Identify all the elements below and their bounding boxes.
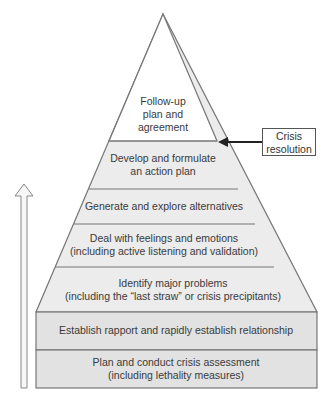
callout-line1: Crisis <box>263 130 315 143</box>
followup-line1: Follow-up <box>138 95 188 108</box>
rapport-line1: Establish rapport and rapidly establish … <box>59 324 293 337</box>
layer-rapport-label: Establish rapport and rapidly establish … <box>59 324 293 337</box>
develop-line2: an action plan <box>110 165 216 178</box>
develop-line1: Develop and formulate <box>110 152 216 165</box>
layer-develop-label: Develop and formulate an action plan <box>110 152 216 178</box>
followup-line3: agreement <box>138 121 188 134</box>
layer-feelings-label: Deal with feelings and emotions (includi… <box>70 232 258 258</box>
layer-assessment-label: Plan and conduct crisis assessment (incl… <box>93 356 260 382</box>
assessment-line2: (including lethality measures) <box>93 369 260 382</box>
layer-followup-label: Follow-up plan and agreement <box>138 95 188 134</box>
followup-line2: plan and <box>138 108 188 121</box>
problems-line1: Identify major problems <box>65 277 281 290</box>
problems-line2: (including the “last straw” or crisis pr… <box>65 290 281 303</box>
layer-problems-label: Identify major problems (including the “… <box>65 277 281 303</box>
crisis-resolution-callout: Crisis resolution <box>262 128 316 156</box>
feelings-line2: (including active listening and validati… <box>70 245 258 258</box>
feelings-line1: Deal with feelings and emotions <box>70 232 258 245</box>
layer-generate-label: Generate and explore alternatives <box>85 200 243 213</box>
generate-line1: Generate and explore alternatives <box>85 200 243 213</box>
hollow-up-arrow-icon <box>15 184 33 388</box>
assessment-line1: Plan and conduct crisis assessment <box>93 356 260 369</box>
callout-line2: resolution <box>263 143 315 156</box>
